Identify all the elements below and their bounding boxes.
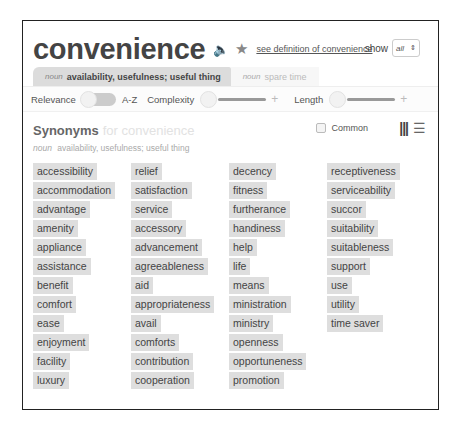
plus-icon: +	[400, 92, 407, 106]
speaker-icon[interactable]: 🔈	[213, 42, 229, 57]
headword: convenience	[33, 33, 205, 66]
synonym-chip[interactable]: use	[327, 277, 352, 294]
synonym-chip[interactable]: benefit	[33, 277, 73, 294]
synonym-chip[interactable]: ministry	[229, 315, 273, 332]
list-view-icon[interactable]: ☰	[413, 120, 426, 136]
length-label: Length	[294, 94, 323, 105]
synonym-chip[interactable]: opportuneness	[229, 353, 306, 370]
synonym-column: reliefsatisfactionserviceaccessoryadvanc…	[131, 163, 229, 391]
synonym-chip[interactable]: promotion	[229, 372, 284, 389]
toggle-knob[interactable]	[80, 91, 97, 108]
show-select[interactable]: all ⇕	[392, 39, 420, 57]
slider-track[interactable]	[218, 98, 266, 101]
tab-sense: availability, usefulness; useful thing	[67, 72, 221, 82]
synonym-chip[interactable]: handiness	[229, 220, 285, 237]
synonym-chip[interactable]: suitability	[327, 220, 378, 237]
synonym-chip[interactable]: service	[131, 201, 172, 218]
tab-availability[interactable]: noun availability, usefulness; useful th…	[33, 67, 231, 86]
synonym-chip[interactable]: accessibility	[33, 163, 97, 180]
synonym-chip[interactable]: cooperation	[131, 372, 194, 389]
subhead-sense: availability, usefulness; useful thing	[57, 143, 189, 153]
synonym-chip[interactable]: advantage	[33, 201, 90, 218]
complexity-label: Complexity	[147, 94, 194, 105]
synonym-chip[interactable]: enjoyment	[33, 334, 89, 351]
synonym-chip[interactable]: ministration	[229, 296, 291, 313]
sense-tabs: noun availability, usefulness; useful th…	[33, 67, 319, 86]
synonym-chip[interactable]: support	[327, 258, 370, 275]
synonym-chip[interactable]: suitableness	[327, 239, 393, 256]
tab-spare-time[interactable]: noun spare time	[231, 67, 319, 86]
definition-link[interactable]: see definition of convenience	[256, 44, 372, 54]
show-filter: show all ⇕	[365, 39, 420, 57]
show-label: show	[365, 43, 388, 54]
tab-sense: spare time	[264, 72, 306, 82]
subhead-pos: noun	[33, 143, 52, 153]
columns-view-icon[interactable]: |||	[399, 120, 408, 136]
synonym-chip[interactable]: accessory	[131, 220, 186, 237]
complexity-slider[interactable]: +	[200, 91, 278, 108]
synonym-chip[interactable]: satisfaction	[131, 182, 192, 199]
synonyms-heading: Synonyms for convenience Common ||| ☰	[33, 120, 428, 140]
synonym-chip[interactable]: utility	[327, 296, 359, 313]
length-slider[interactable]: +	[329, 91, 407, 108]
plus-icon: +	[271, 92, 278, 106]
synonym-chip[interactable]: serviceability	[327, 182, 395, 199]
select-arrows-icon: ⇕	[410, 44, 416, 52]
synonym-chip[interactable]: help	[229, 239, 257, 256]
synonym-chip[interactable]: assistance	[33, 258, 91, 275]
relevance-label: Relevance	[31, 94, 76, 105]
synonym-grid: accessibilityaccommodationadvantageameni…	[33, 163, 425, 391]
az-label: A-Z	[122, 94, 137, 105]
common-filter[interactable]: Common	[316, 123, 368, 133]
synonyms-title: Synonyms	[33, 123, 99, 138]
slider-knob[interactable]	[329, 91, 346, 108]
synonym-chip[interactable]: appropriateness	[131, 296, 214, 313]
synonym-chip[interactable]: openness	[229, 334, 283, 351]
synonym-chip[interactable]: comfort	[33, 296, 76, 313]
synonym-chip[interactable]: ease	[33, 315, 64, 332]
synonym-chip[interactable]: accommodation	[33, 182, 115, 199]
synonym-chip[interactable]: receptiveness	[327, 163, 400, 180]
show-select-value: all	[396, 44, 404, 53]
synonym-chip[interactable]: aid	[131, 277, 153, 294]
star-icon[interactable]: ★	[235, 40, 248, 58]
tab-pos: noun	[243, 72, 261, 81]
synonym-chip[interactable]: decency	[229, 163, 276, 180]
common-checkbox[interactable]	[316, 123, 326, 133]
synonyms-for: for convenience	[103, 123, 195, 138]
synonym-chip[interactable]: means	[229, 277, 269, 294]
sort-toggle[interactable]	[82, 93, 116, 106]
synonym-chip[interactable]: agreeableness	[131, 258, 208, 275]
filter-bar: Relevance A-Z Complexity + Length +	[23, 86, 438, 112]
synonym-chip[interactable]: time saver	[327, 315, 383, 332]
synonym-chip[interactable]: fitness	[229, 182, 267, 199]
common-label: Common	[331, 123, 368, 133]
synonym-chip[interactable]: luxury	[33, 372, 69, 389]
slider-knob[interactable]	[200, 91, 217, 108]
synonym-column: decencyfitnessfurtherancehandinesshelpli…	[229, 163, 327, 391]
synonym-chip[interactable]: relief	[131, 163, 162, 180]
synonym-chip[interactable]: contribution	[131, 353, 193, 370]
synonym-chip[interactable]: avail	[131, 315, 161, 332]
sense-subheading: noun availability, usefulness; useful th…	[33, 143, 189, 153]
synonym-chip[interactable]: appliance	[33, 239, 86, 256]
slider-track[interactable]	[347, 98, 395, 101]
synonym-chip[interactable]: succor	[327, 201, 366, 218]
synonym-chip[interactable]: furtherance	[229, 201, 290, 218]
synonym-chip[interactable]: amenity	[33, 220, 78, 237]
header-row: convenience 🔈 ★ see definition of conven…	[33, 31, 428, 67]
tab-pos: noun	[45, 72, 63, 81]
thesaurus-panel: convenience 🔈 ★ see definition of conven…	[22, 20, 439, 410]
synonym-column: receptivenessserviceabilitysuccorsuitabi…	[327, 163, 425, 391]
synonym-chip[interactable]: life	[229, 258, 250, 275]
synonym-chip[interactable]: facility	[33, 353, 70, 370]
synonym-chip[interactable]: comforts	[131, 334, 179, 351]
synonym-chip[interactable]: advancement	[131, 239, 202, 256]
synonym-column: accessibilityaccommodationadvantageameni…	[33, 163, 131, 391]
